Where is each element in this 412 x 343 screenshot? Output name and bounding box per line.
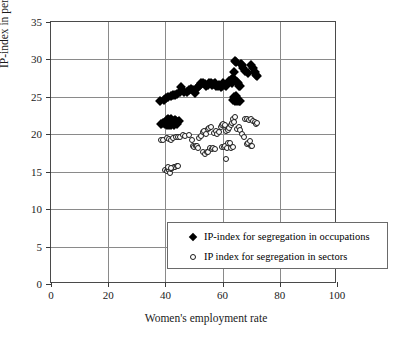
filled-diamond-icon bbox=[186, 234, 200, 240]
data-point-sectors bbox=[241, 134, 247, 140]
data-point-sectors bbox=[168, 165, 174, 171]
data-point-sectors bbox=[216, 129, 222, 135]
data-point-occupations bbox=[253, 71, 263, 81]
y-tick-label: 10 bbox=[31, 204, 42, 215]
data-point-sectors bbox=[175, 163, 181, 169]
x-axis-title: Women's employment rate bbox=[0, 312, 412, 324]
y-tick-label: 30 bbox=[31, 54, 42, 65]
gridline-horizontal bbox=[51, 97, 335, 98]
x-tick-mark bbox=[337, 282, 338, 287]
gridline-horizontal bbox=[51, 209, 335, 210]
data-point-sectors bbox=[189, 137, 195, 143]
open-circle-icon bbox=[186, 254, 200, 260]
y-axis-title: IP-index in percent bbox=[0, 0, 10, 104]
x-tick-label: 40 bbox=[160, 290, 171, 301]
y-tick-label: 15 bbox=[31, 166, 42, 177]
y-tick-mark bbox=[46, 22, 51, 23]
x-tick-label: 60 bbox=[217, 290, 228, 301]
gridline-horizontal bbox=[51, 59, 335, 60]
data-point-sectors bbox=[249, 143, 255, 149]
y-tick-mark bbox=[46, 172, 51, 173]
x-tick-mark bbox=[108, 282, 109, 287]
legend-item-occupations: IP-index for segregation in occupations bbox=[186, 228, 387, 246]
chart-legend: IP-index for segregation in occupations … bbox=[167, 222, 388, 269]
x-tick-label: 80 bbox=[274, 290, 285, 301]
data-point-sectors bbox=[212, 146, 218, 152]
y-tick-mark bbox=[46, 247, 51, 248]
gridline-horizontal bbox=[51, 172, 335, 173]
x-tick-label: 0 bbox=[48, 290, 54, 301]
x-tick-mark bbox=[51, 282, 52, 287]
data-point-sectors bbox=[223, 156, 229, 162]
y-tick-mark bbox=[46, 59, 51, 60]
x-tick-label: 20 bbox=[103, 290, 114, 301]
x-tick-label: 100 bbox=[329, 290, 346, 301]
gridline-horizontal bbox=[51, 134, 335, 135]
y-tick-label: 5 bbox=[37, 241, 43, 252]
legend-item-sectors: IP index for segregation in sectors bbox=[186, 248, 387, 266]
scatter-chart-figure: IP-index in percent 05101520253035 02040… bbox=[0, 0, 412, 343]
legend-label-sectors: IP index for segregation in sectors bbox=[204, 251, 347, 263]
y-tick-mark bbox=[46, 209, 51, 210]
data-point-sectors bbox=[254, 120, 260, 126]
x-tick-mark bbox=[280, 282, 281, 287]
y-tick-label: 35 bbox=[31, 17, 42, 28]
x-tick-mark bbox=[223, 282, 224, 287]
y-tick-mark bbox=[46, 97, 51, 98]
x-tick-mark bbox=[165, 282, 166, 287]
data-point-sectors bbox=[230, 144, 236, 150]
y-tick-label: 20 bbox=[31, 129, 42, 140]
y-tick-label: 25 bbox=[31, 91, 42, 102]
y-tick-label: 0 bbox=[37, 279, 43, 290]
y-tick-mark bbox=[46, 134, 51, 135]
legend-label-occupations: IP-index for segregation in occupations bbox=[204, 231, 370, 243]
gridline-vertical bbox=[108, 22, 109, 282]
